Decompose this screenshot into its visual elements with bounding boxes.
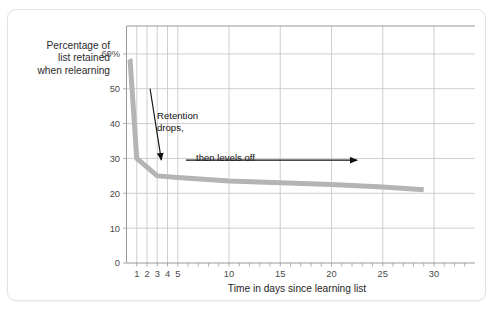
x-tick-label: 1	[134, 269, 139, 279]
annotation-retention-drops: Retention drops,	[157, 110, 198, 133]
grid-lines	[127, 26, 476, 263]
x-tick-label: 15	[275, 269, 285, 279]
annotation-levels-off: then levels off	[196, 152, 255, 164]
screenshot-root: Percentage of list retained when relearn…	[0, 0, 499, 322]
x-tick-label: 30	[429, 269, 439, 279]
axis-lines	[127, 26, 476, 263]
x-axis-title: Time in days since learning list	[228, 283, 367, 294]
y-tick-label: 30	[110, 154, 120, 164]
x-tick-label: 25	[378, 269, 388, 279]
x-tick-label: 5	[175, 269, 180, 279]
annotation-retention-line-1: Retention	[157, 110, 198, 122]
x-tick-label: 2	[144, 269, 149, 279]
x-tick-label: 3	[155, 269, 160, 279]
y-tick-label: 60%	[101, 49, 120, 59]
x-tick-label: 4	[165, 269, 170, 279]
x-tick-label: 10	[224, 269, 234, 279]
tick-labels: 1234510152025300102030405060%	[101, 49, 439, 279]
annotation-retention-line-2: drops,	[157, 122, 198, 134]
plot-area: 1234510152025300102030405060% Time in da…	[0, 0, 499, 322]
y-tick-label: 20	[110, 189, 120, 199]
y-tick-label: 0	[115, 258, 120, 268]
y-tick-label: 10	[110, 224, 120, 234]
x-tick-label: 20	[326, 269, 336, 279]
y-tick-label: 40	[110, 119, 120, 129]
y-tick-label: 50	[110, 84, 120, 94]
